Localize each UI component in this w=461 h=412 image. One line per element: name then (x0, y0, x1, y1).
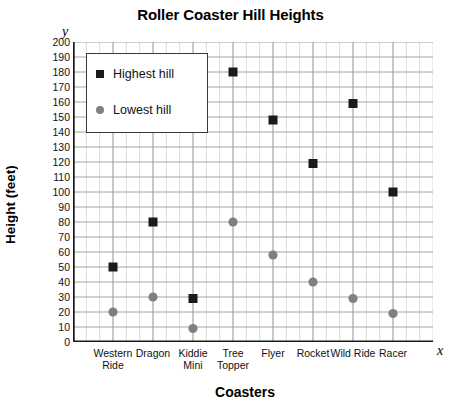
y-axis-title: Height (feet) (0, 130, 22, 280)
y-axis-tick-label: 90 (40, 202, 70, 212)
y-axis-tick-label: 200 (40, 37, 70, 47)
data-point-highest-hill (349, 99, 358, 108)
square-marker-icon (96, 70, 104, 78)
x-axis-letter: x (437, 343, 443, 359)
y-axis-tick-label: 40 (40, 277, 70, 287)
y-axis-tick-label: 0 (40, 337, 70, 347)
data-point-lowest-hill (388, 309, 397, 318)
data-point-highest-hill (149, 218, 158, 227)
y-axis-tick-label: 130 (40, 142, 70, 152)
data-point-highest-hill (269, 116, 278, 125)
data-point-lowest-hill (148, 292, 157, 301)
y-axis-tick-labels: 0102030405060708090100110120130140150160… (38, 42, 70, 342)
circle-marker-icon (96, 106, 104, 114)
data-point-highest-hill (229, 68, 238, 77)
x-axis-tick-label-line: Ride (78, 359, 148, 371)
x-axis-tick-label-line: Racer (358, 347, 428, 359)
y-axis-tick-label: 10 (40, 322, 70, 332)
data-point-lowest-hill (108, 307, 117, 316)
y-axis-tick-label: 140 (40, 127, 70, 137)
chart-page: Roller Coaster Hill Heights Height (feet… (0, 0, 461, 412)
legend-item-highest-hill: Highest hill (96, 67, 174, 81)
y-axis-tick-label: 80 (40, 217, 70, 227)
x-axis-tick-labels: WesternRideDragonKiddieMiniTreeTopperFly… (73, 347, 433, 387)
data-point-lowest-hill (268, 250, 277, 259)
data-point-highest-hill (309, 159, 318, 168)
x-axis-tick-label-line: Topper (198, 359, 268, 371)
y-axis-tick-label: 180 (40, 67, 70, 77)
y-axis-tick-label: 70 (40, 232, 70, 242)
y-axis-tick-label: 150 (40, 112, 70, 122)
y-axis-tick-label: 60 (40, 247, 70, 257)
data-point-lowest-hill (228, 217, 237, 226)
chart-title: Roller Coaster Hill Heights (0, 6, 461, 23)
data-point-lowest-hill (308, 277, 317, 286)
data-point-highest-hill (389, 188, 398, 197)
y-axis-tick-label: 190 (40, 52, 70, 62)
data-point-lowest-hill (348, 294, 357, 303)
chart-legend: Highest hill Lowest hill (86, 53, 208, 133)
y-axis-tick-label: 20 (40, 307, 70, 317)
y-axis-tick-label: 160 (40, 97, 70, 107)
data-point-lowest-hill (188, 324, 197, 333)
x-axis-tick-label: Racer (358, 347, 428, 359)
y-axis-tick-label: 30 (40, 292, 70, 302)
y-axis-tick-label: 50 (40, 262, 70, 272)
data-point-highest-hill (189, 294, 198, 303)
legend-item-lowest-hill: Lowest hill (96, 103, 171, 117)
y-axis-tick-label: 110 (40, 172, 70, 182)
legend-label-highest-hill: Highest hill (113, 67, 174, 81)
y-axis-tick-label: 170 (40, 82, 70, 92)
data-point-highest-hill (109, 263, 118, 272)
legend-label-lowest-hill: Lowest hill (113, 103, 171, 117)
y-axis-tick-label: 120 (40, 157, 70, 167)
y-axis-tick-label: 100 (40, 187, 70, 197)
